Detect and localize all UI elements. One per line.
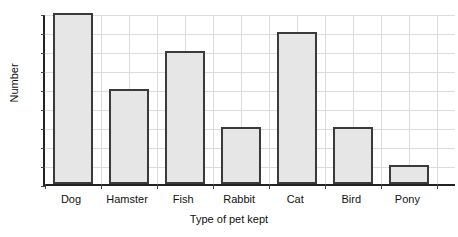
x-tick-mark xyxy=(437,184,438,189)
gridline-horizontal xyxy=(45,15,455,16)
x-tick-label-rabbit: Rabbit xyxy=(223,193,255,205)
gridline-vertical xyxy=(325,15,326,184)
bar-pony xyxy=(389,165,429,184)
bar-cat xyxy=(277,32,317,184)
x-tick-label-cat: Cat xyxy=(287,193,304,205)
x-tick-mark xyxy=(381,184,382,189)
x-axis-title: Type of pet kept xyxy=(0,213,458,225)
x-tick-mark xyxy=(269,184,270,189)
gridline-vertical xyxy=(269,15,270,184)
x-tick-mark xyxy=(325,184,326,189)
x-tick-label-fish: Fish xyxy=(173,193,194,205)
bar-bird xyxy=(333,127,373,184)
bar-rabbit xyxy=(221,127,261,184)
y-axis-title: Number xyxy=(8,38,20,128)
gridline-vertical xyxy=(157,15,158,184)
y-tick-mark xyxy=(41,34,45,35)
gridline-vertical xyxy=(409,15,410,184)
gridline-vertical xyxy=(437,15,438,184)
y-tick-mark xyxy=(41,110,45,111)
gridline-horizontal xyxy=(45,72,455,73)
x-tick-label-pony: Pony xyxy=(395,193,420,205)
bar-fish xyxy=(165,51,205,184)
bar-dog xyxy=(53,13,93,184)
bar-chart: Number 0123456789 Type of pet kept DogHa… xyxy=(0,0,458,237)
x-tick-mark xyxy=(213,184,214,189)
y-tick-mark xyxy=(41,91,45,92)
gridline-horizontal xyxy=(45,53,455,54)
plot-area: 0123456789 xyxy=(43,15,455,186)
y-tick-mark xyxy=(41,53,45,54)
y-tick-mark xyxy=(41,72,45,73)
y-tick-mark xyxy=(41,167,45,168)
gridline-horizontal xyxy=(45,91,455,92)
gridline-vertical xyxy=(213,15,214,184)
x-tick-mark xyxy=(157,184,158,189)
y-tick-mark xyxy=(41,148,45,149)
gridline-horizontal xyxy=(45,110,455,111)
x-tick-label-bird: Bird xyxy=(342,193,362,205)
gridline-vertical xyxy=(101,15,102,184)
y-tick-mark xyxy=(41,129,45,130)
bar-hamster xyxy=(109,89,149,184)
y-tick-mark xyxy=(41,15,45,16)
gridline-horizontal xyxy=(45,34,455,35)
x-tick-mark xyxy=(101,184,102,189)
gridline-vertical xyxy=(381,15,382,184)
x-tick-label-hamster: Hamster xyxy=(106,193,148,205)
x-tick-label-dog: Dog xyxy=(61,193,81,205)
x-tick-mark xyxy=(45,184,46,189)
